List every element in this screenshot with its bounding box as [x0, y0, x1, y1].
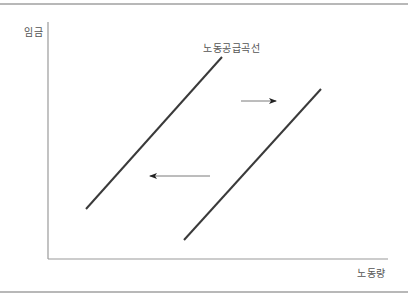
- x-axis-label: 노동량: [357, 265, 386, 280]
- bottom-border: [0, 291, 408, 293]
- supply-curve-label: 노동공급곡선: [203, 40, 260, 55]
- original-supply-curve: [86, 57, 222, 209]
- y-axis-label: 임금: [24, 24, 43, 39]
- shifted-supply-curve: [184, 89, 321, 240]
